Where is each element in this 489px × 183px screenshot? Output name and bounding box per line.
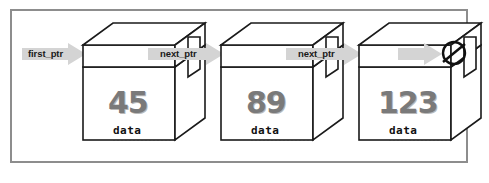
node-field-label-3: data <box>389 125 418 136</box>
node-value-1: 45 <box>108 88 148 118</box>
node-field-label-2: data <box>251 125 280 136</box>
node-value-2: 89 <box>246 88 286 118</box>
label-first-ptr: first_ptr <box>28 49 63 59</box>
label-next-ptr-2: next_ptr <box>298 49 335 59</box>
arrow-to-null <box>398 43 442 65</box>
null-symbol-icon <box>438 37 470 69</box>
node-value-3: 123 <box>378 88 438 118</box>
node-field-label-1: data <box>113 125 142 136</box>
list-node-2: 89 data <box>220 19 340 143</box>
linked-list-diagram: first_ptr <box>0 0 489 183</box>
list-node-1: 45 data <box>82 19 202 143</box>
label-next-ptr-1: next_ptr <box>160 49 197 59</box>
